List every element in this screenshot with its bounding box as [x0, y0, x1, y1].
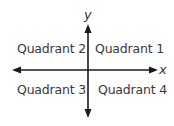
y-axis-up-arrow-icon [85, 24, 92, 33]
x-axis-right-arrow-icon [149, 67, 158, 74]
y-axis-down-arrow-icon [85, 109, 92, 118]
x-axis-label: x [159, 63, 167, 76]
quadrant-3-label: Quadrant 3 [17, 84, 86, 97]
quadrant-4-label: Quadrant 4 [98, 84, 167, 97]
quadrant-1-label: Quadrant 1 [95, 43, 164, 56]
coordinate-plane-diagram: y x Quadrant 2 Quadrant 1 Quadrant 3 Qua… [0, 0, 174, 126]
x-axis-left-arrow-icon [12, 67, 21, 74]
y-axis-label: y [84, 8, 92, 21]
x-axis [12, 67, 158, 74]
quadrant-2-label: Quadrant 2 [17, 43, 86, 56]
y-axis [85, 24, 92, 118]
